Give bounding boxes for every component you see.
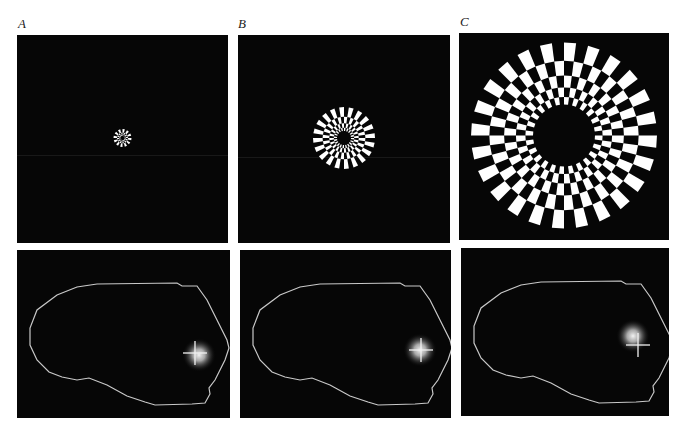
checkerboard-check <box>347 107 353 117</box>
activation-spot <box>182 338 216 372</box>
checkerboard-check <box>357 143 364 148</box>
checkerboard-check <box>564 76 572 88</box>
checkerboard-check <box>564 174 570 184</box>
checkerboard-check <box>595 136 603 141</box>
checkerboard-check <box>358 131 365 135</box>
checkerboard-check <box>319 151 329 160</box>
checkerboard-check <box>347 147 351 152</box>
checkerboard-check <box>114 139 118 142</box>
checkerboard-check <box>118 140 120 142</box>
checkerboard-check <box>350 140 353 142</box>
checkerboard-check <box>127 134 131 137</box>
checkerboard-check <box>516 165 530 178</box>
checkerboard-check <box>582 177 594 191</box>
checkerboard-check <box>351 157 358 167</box>
checkerboard-check <box>363 124 373 131</box>
checkerboard-check <box>617 70 638 90</box>
checkerboard-check <box>334 139 337 141</box>
brain-map-panel-b <box>240 250 451 418</box>
checkerboard-check <box>490 181 511 201</box>
brain-map-b <box>240 250 451 418</box>
checkerboard-check <box>593 144 602 151</box>
checkerboard-check <box>554 61 564 76</box>
checkerboard-check <box>326 155 335 165</box>
checkerboard-check <box>349 118 354 125</box>
checkerboard-check <box>124 140 126 142</box>
checkerboard-check <box>344 128 346 131</box>
checkerboard-check <box>342 123 344 128</box>
checkerboard-check <box>124 143 127 147</box>
checkerboard-check <box>349 125 353 130</box>
checkerboard-check <box>558 87 564 97</box>
checkerboard-check <box>572 61 584 77</box>
activation-spot <box>616 319 650 353</box>
checkerboard-check <box>511 178 527 195</box>
checkerboard-check <box>351 150 357 157</box>
checkerboard-check <box>588 84 600 98</box>
checkerboard-check <box>569 88 576 98</box>
checkerboard-check <box>610 120 623 129</box>
checkerboard-check <box>619 107 636 120</box>
checkerboard-check <box>498 62 518 83</box>
checkerboard-check <box>516 123 526 130</box>
checkerboard-check <box>489 136 504 146</box>
checkerboard-check <box>633 155 654 171</box>
checkerboard-check <box>474 100 495 116</box>
checkerboard-check <box>552 173 559 183</box>
checkerboard-check <box>331 129 336 133</box>
checkerboard-check <box>601 55 620 76</box>
checkerboard-check <box>330 109 337 119</box>
checkerboard-check <box>117 138 119 139</box>
checkerboard-check <box>505 142 518 151</box>
checkerboard-check <box>125 139 127 141</box>
checkerboard-check <box>352 143 357 147</box>
checkerboard-check <box>332 144 337 148</box>
checkerboard-check <box>499 165 516 180</box>
checkerboard-check <box>334 126 338 131</box>
checkerboard-check <box>568 165 574 173</box>
checkerboard-check <box>359 138 366 141</box>
checkerboard-check <box>535 94 545 105</box>
stimulus-panel-c <box>459 33 669 240</box>
checkerboard-check <box>124 138 125 139</box>
checkerboard-check <box>623 126 638 136</box>
checkerboard-check <box>341 128 343 131</box>
checkerboard-check <box>612 136 624 144</box>
checkerboard-check <box>598 93 612 106</box>
checkerboard-check <box>586 108 595 116</box>
checkerboard-check <box>115 132 119 136</box>
checkerboard-check <box>520 111 531 120</box>
checkerboard-check <box>545 100 552 109</box>
checkerboard-check <box>583 166 593 177</box>
checkerboard-check <box>597 150 608 159</box>
panel-label-b: B <box>238 16 246 32</box>
checkerboard-check <box>602 160 616 172</box>
checkerboard-check <box>600 117 611 125</box>
checkerboard-check <box>125 134 127 136</box>
checkerboard-check <box>365 133 375 138</box>
checkerboard-check <box>504 128 516 136</box>
checkerboard-check <box>128 138 132 140</box>
checkerboard-check <box>123 140 124 141</box>
checkerboard-stimulus-b <box>238 35 450 243</box>
checkerboard-check <box>505 83 522 99</box>
checkerboard-check <box>119 133 121 135</box>
checkerboard-check <box>351 138 354 140</box>
checkerboard-check <box>594 126 602 132</box>
checkerboard-check <box>583 157 591 166</box>
checkerboard-check <box>330 141 335 145</box>
checkerboard-check <box>354 110 363 120</box>
checkerboard-check <box>527 187 541 204</box>
checkerboard-check <box>541 180 551 193</box>
checkerboard-check <box>608 148 621 158</box>
checkerboard-check <box>589 151 598 159</box>
checkerboard-check <box>579 91 588 102</box>
checkerboard-check <box>518 145 529 153</box>
checkerboard-check <box>337 143 340 146</box>
checkerboard-check <box>540 160 548 169</box>
checkerboard-check <box>121 133 122 135</box>
checkerboard-check <box>548 76 557 89</box>
checkerboard-check <box>540 43 554 63</box>
stimulus-panel-b <box>238 35 450 243</box>
checkerboard-check <box>583 46 599 67</box>
